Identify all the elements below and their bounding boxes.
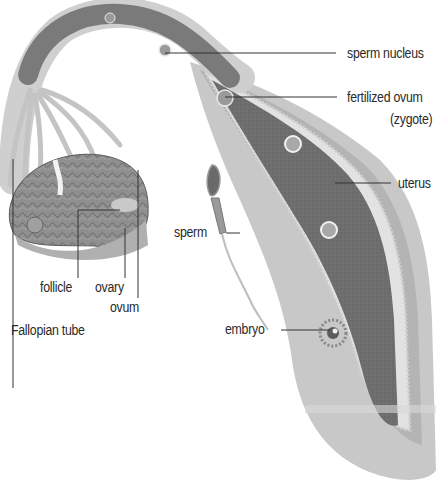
ovary [9, 154, 148, 260]
label-ovary: ovary [95, 279, 124, 295]
label-follicle: follicle [40, 279, 72, 295]
reproduction-diagram [0, 0, 441, 495]
label-fallopian-tube: Fallopian tube [11, 322, 85, 338]
label-sperm: sperm [174, 224, 207, 240]
label-embryo: embryo [225, 321, 265, 337]
label-fertilized-ovum: fertilized ovum [347, 89, 422, 105]
label-sperm-nucleus: sperm nucleus [347, 45, 424, 61]
label-ovum: ovum [110, 299, 139, 315]
label-zygote: (zygote) [390, 111, 432, 127]
label-uterus: uterus [398, 175, 431, 191]
